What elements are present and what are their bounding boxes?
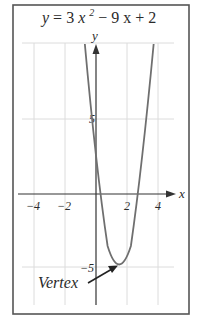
chart-frame	[13, 5, 189, 314]
axes	[18, 44, 176, 305]
x-tick-2: 2	[124, 199, 130, 213]
x-axis-label: x	[178, 186, 185, 201]
x-tick-4: 4	[155, 199, 161, 213]
vertex-label: Vertex	[38, 274, 78, 291]
y-axis-label: y	[90, 28, 98, 43]
x-tick-neg2: −2	[57, 199, 71, 213]
y-axis-arrow-icon	[93, 44, 100, 54]
x-axis-arrow-icon	[166, 191, 176, 198]
y-tick-neg5: −5	[80, 261, 94, 275]
parabola-curve	[85, 44, 154, 265]
x-tick-neg4: −4	[26, 199, 40, 213]
parabola-chart: y = 3 x 2 − 9 x + 2 x y −4 −2 2 4 5 −5 V…	[0, 0, 198, 325]
vertex-arrow-head-icon	[108, 266, 118, 274]
